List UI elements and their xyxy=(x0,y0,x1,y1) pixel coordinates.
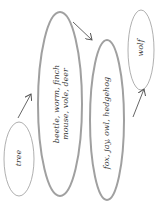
arrow-tree-to-primary xyxy=(18,94,31,118)
food-chain-diagram: tree beetle, worm, finch mouse, vole, de… xyxy=(0,0,157,206)
wolf-label: wolf xyxy=(136,39,145,56)
primary-consumers-line1: beetle, worm, finch xyxy=(52,65,61,143)
primary-consumers-label: beetle, worm, finch mouse, vole, deer xyxy=(52,65,70,143)
tree-label: tree xyxy=(14,150,23,167)
primary-consumers-line2: mouse, vole, deer xyxy=(61,65,70,143)
arrow-secondary-to-wolf xyxy=(133,89,144,117)
diagram-shapes xyxy=(0,0,157,206)
secondary-consumers-label: fox, jay, owl, hedgehog xyxy=(102,77,111,169)
